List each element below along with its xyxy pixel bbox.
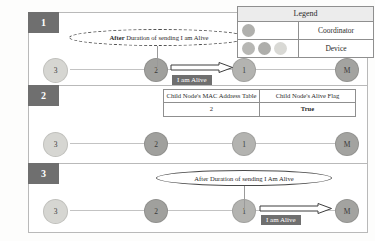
node-3-panel3-label: 3 — [54, 207, 58, 216]
coordinator-dot-icon — [242, 24, 255, 37]
message-chip-panel3: I am Alive — [261, 215, 301, 225]
link-3-to-2-panel1 — [70, 69, 149, 70]
legend-box: Legend Coordinator Device — [237, 6, 374, 58]
child-node-flag-table: Child Node's MAC Address Table Child Nod… — [163, 89, 356, 117]
link-2-to-1-panel3 — [166, 210, 238, 211]
flag-table-row: 2 True — [164, 103, 355, 116]
device-dot-icon-3 — [274, 42, 287, 55]
flag-table-cell-mac: 2 — [164, 103, 260, 116]
block-arrow-panel3 — [259, 202, 333, 215]
flag-table-header-alive: Child Node's Alive Flag — [260, 90, 355, 102]
node-M-panel1[interactable]: M — [335, 58, 359, 82]
node-3-panel2[interactable]: 3 — [43, 132, 68, 157]
node-1-panel1[interactable]: 1 — [232, 58, 256, 82]
bubble-stem-1 — [157, 46, 158, 69]
diagram-canvas: 1 After Duration of sending I am Alive 3… — [0, 0, 375, 241]
legend-title: Legend — [238, 7, 373, 22]
node-3-panel1[interactable]: 3 — [43, 58, 68, 83]
legend-label-coordinator: Coordinator — [299, 22, 373, 39]
message-chip-panel1: I am Alive — [172, 75, 212, 85]
link-2-to-1-panel2 — [166, 143, 238, 144]
link-1-to-M-panel2 — [255, 143, 337, 144]
node-2-panel2-label: 2 — [154, 140, 158, 149]
node-M-panel2[interactable]: M — [335, 132, 359, 156]
legend-row-coordinator: Coordinator — [238, 22, 373, 40]
node-3-panel2-label: 3 — [54, 140, 58, 149]
node-M-panel2-label: M — [344, 140, 351, 149]
flag-table-header-mac: Child Node's MAC Address Table — [164, 90, 260, 102]
legend-label-device: Device — [299, 40, 373, 57]
legend-row-device: Device — [238, 40, 373, 57]
link-3-to-2-panel2 — [70, 143, 149, 144]
link-1-to-M-panel1 — [255, 69, 337, 70]
node-2-panel3[interactable]: 2 — [144, 199, 168, 223]
panel-badge-1: 1 — [28, 12, 59, 33]
node-1-panel1-label: 1 — [242, 66, 246, 75]
device-dot-icon-2 — [258, 42, 271, 55]
legend-swatch-coordinator — [238, 22, 299, 39]
node-1-panel2-label: 1 — [242, 140, 246, 149]
duration-bubble-3-text: After Duration of sending I Am Alive — [194, 175, 293, 182]
node-2-panel2[interactable]: 2 — [144, 132, 168, 156]
legend-swatch-device — [238, 40, 299, 57]
node-1-panel2[interactable]: 1 — [232, 132, 256, 156]
node-2-panel3-label: 2 — [154, 207, 158, 216]
node-2-panel1[interactable]: 2 — [144, 58, 168, 82]
duration-bubble-1: After Duration of sending I am Alive — [69, 29, 249, 46]
flag-table-header-row: Child Node's MAC Address Table Child Nod… — [164, 90, 355, 103]
panel-step-3: 3 After Duration of sending I Am Alive 3… — [28, 163, 368, 233]
node-M-panel1-label: M — [344, 66, 351, 75]
duration-bubble-1-text: After Duration of sending I am Alive — [110, 34, 209, 41]
panel-badge-2: 2 — [28, 85, 59, 106]
node-M-panel3[interactable]: M — [335, 199, 359, 223]
link-3-to-2-panel3 — [70, 210, 149, 211]
panel-badge-3: 3 — [28, 163, 59, 184]
bubble-stem-3 — [244, 186, 245, 210]
flag-table-cell-alive: True — [260, 103, 355, 116]
duration-bubble-3: After Duration of sending I Am Alive — [156, 170, 332, 186]
block-arrow-panel1 — [170, 61, 234, 74]
node-M-panel3-label: M — [344, 207, 351, 216]
node-3-panel3[interactable]: 3 — [43, 199, 68, 224]
node-3-panel1-label: 3 — [54, 66, 58, 75]
device-dot-icon-1 — [242, 42, 255, 55]
